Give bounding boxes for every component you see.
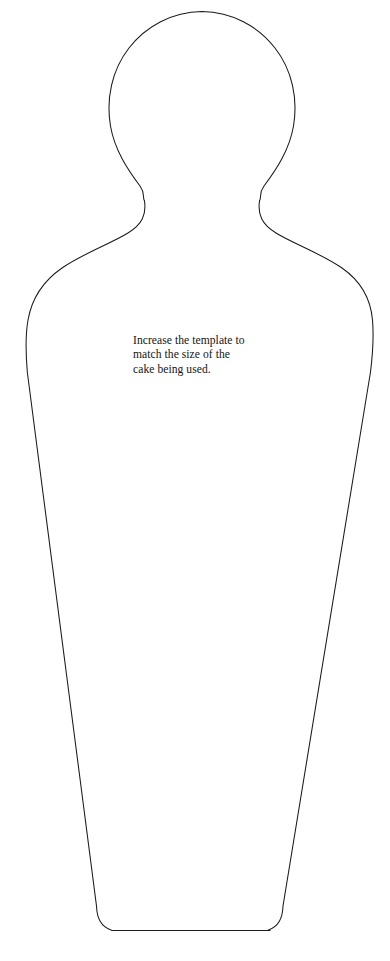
template-page: Increase the template to match the size …: [0, 0, 390, 961]
instruction-text: Increase the template to match the size …: [133, 334, 293, 377]
body-silhouette-outline: [0, 0, 390, 961]
